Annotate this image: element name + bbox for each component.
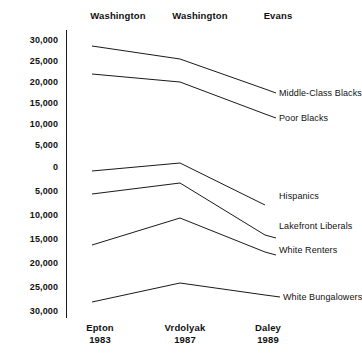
series-label-poor-blacks: Poor Blacks <box>279 113 328 123</box>
x-category-name-vrdolyak: Vrdolyak <box>165 322 206 333</box>
x-category-year-1987: 1987 <box>165 334 206 346</box>
x-category-vrdolyak-1987: Vrdolyak 1987 <box>165 322 206 345</box>
x-category-name-epton: Epton <box>86 322 114 333</box>
series-label-hispanics: Hispanics <box>279 191 319 201</box>
series-line-middle-class-blacks <box>92 46 265 89</box>
series-line-lakefront-liberals <box>92 183 265 235</box>
x-category-year-1989: 1989 <box>255 334 281 346</box>
leader-line-white-bungalowers <box>265 295 280 297</box>
series-line-white-renters <box>92 218 265 252</box>
series-line-hispanics <box>92 163 265 205</box>
leader-line-lakefront-liberals <box>265 235 276 238</box>
x-category-epton-1983: Epton 1983 <box>86 322 114 345</box>
leader-line-middle-class-blacks <box>265 89 276 93</box>
x-category-year-1983: 1983 <box>86 334 114 346</box>
series-label-lakefront-liberals: Lakefront Liberals <box>279 221 352 231</box>
leader-line-poor-blacks <box>265 114 276 118</box>
series-label-middle-class-blacks: Middle-Class Blacks <box>279 88 362 98</box>
series-label-white-bungalowers: White Bungalowers <box>283 292 362 302</box>
series-label-white-renters: White Renters <box>279 245 337 255</box>
leader-line-white-renters <box>265 252 276 255</box>
x-category-daley-1989: Daley 1989 <box>255 322 281 345</box>
series-line-white-bungalowers <box>92 283 265 302</box>
x-category-name-daley: Daley <box>255 322 281 333</box>
